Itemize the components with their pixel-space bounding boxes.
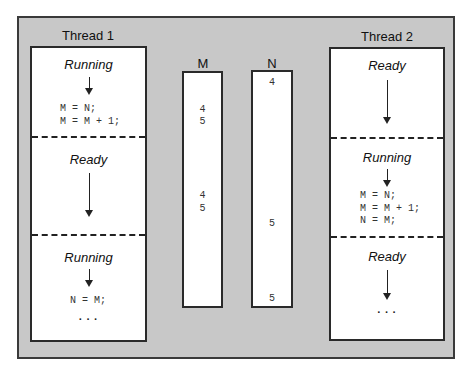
thread2-state-ready-1: Ready [331,58,443,73]
n-value: 4 [253,77,291,88]
variable-n-title: N [252,56,292,71]
divider [32,234,145,236]
m-value: 5 [184,116,221,127]
thread1-code-2: N = M; [70,295,106,308]
thread2-state-running: Running [331,150,443,165]
thread1-state-ready: Ready [32,152,145,167]
thread1-state-running-2: Running [32,250,145,265]
ellipsis: ... [32,311,145,323]
thread1-state-running-1: Running [32,57,145,72]
thread2-title: Thread 2 [327,29,447,44]
divider [331,137,443,139]
thread2-timeline: Ready Running M = N; M = M + 1; N = M; R… [329,47,445,341]
variable-n-column: 4 5 5 [251,70,293,308]
variable-m-column: 4 5 4 5 [182,71,223,308]
ellipsis: ... [331,304,443,316]
n-value: 5 [253,218,291,229]
m-value: 4 [184,190,221,201]
thread1-code-1: M = N; M = M + 1; [60,103,120,128]
thread2-code: M = N; M = M + 1; N = M; [360,190,420,228]
divider [331,236,443,238]
variable-m-title: M [183,56,223,71]
thread2-state-ready-2: Ready [331,249,443,264]
m-value: 4 [184,104,221,115]
m-value: 5 [184,203,221,214]
thread1-timeline: Running M = N; M = M + 1; Ready Running … [30,46,147,342]
thread1-title: Thread 1 [28,28,148,43]
divider [32,136,145,138]
n-value: 5 [253,293,291,304]
